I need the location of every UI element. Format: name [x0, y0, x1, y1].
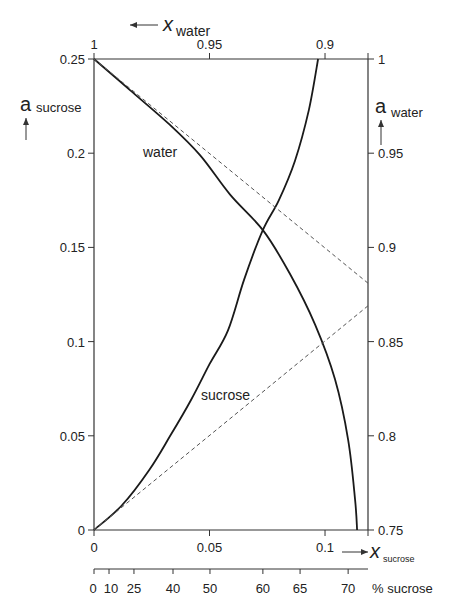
right-tick-label: 0.85	[378, 335, 403, 350]
x-sucrose-axis-title: x	[369, 540, 381, 562]
percent-tick-label: 0	[89, 581, 96, 596]
x-sucrose-axis-subscript: sucrose	[383, 554, 415, 564]
water-ideal-raoult-line	[94, 59, 368, 283]
percent-tick-label: 40	[166, 581, 180, 596]
right-tick-label: 0.75	[378, 523, 403, 538]
bottom-tick-label: 0.05	[197, 540, 222, 555]
sucrose-ideal-raoult-line	[94, 306, 368, 530]
percent-tick-label: 50	[203, 581, 217, 596]
a-water-axis-subscript: water	[390, 105, 423, 120]
percent-tick-label: 70	[341, 581, 355, 596]
sucrose-line	[94, 59, 318, 530]
percent-axis-title: % sucrose	[372, 581, 433, 596]
water-curve-label: water	[142, 144, 178, 160]
right-tick-label: 1	[378, 52, 385, 67]
percent-tick-label: 25	[127, 581, 141, 596]
left-tick-label: 0	[78, 523, 85, 538]
x-sucrose-arrow-icon-head	[361, 549, 368, 555]
plot-frame	[94, 59, 368, 569]
x-water-arrow-icon-head	[130, 22, 137, 28]
a-sucrose-arrow-icon-head	[23, 118, 29, 125]
percent-tick-label: 60	[256, 581, 270, 596]
a-water-axis-title: a	[375, 95, 387, 117]
right-tick-label: 0.9	[378, 240, 396, 255]
x-water-axis-subscript: water	[175, 23, 211, 39]
sucrose-curve-label: sucrose	[201, 387, 250, 403]
left-tick-label: 0.15	[60, 240, 85, 255]
water-line	[94, 59, 357, 530]
left-tick-label: 0.2	[67, 146, 85, 161]
left-tick-label: 0.05	[60, 429, 85, 444]
a-sucrose-axis-title: a	[20, 93, 32, 115]
percent-tick-label: 10	[104, 581, 118, 596]
left-tick-label: 0.1	[67, 335, 85, 350]
axis-labels: 00.050.10.150.20.250.750.80.850.90.95100…	[20, 13, 433, 596]
a-water-arrow-icon-head	[378, 120, 384, 127]
left-tick-label: 0.25	[60, 52, 85, 67]
percent-tick-label: 65	[293, 581, 307, 596]
top-tick-label: 0.95	[197, 37, 222, 52]
bottom-tick-label: 0.1	[316, 540, 334, 555]
x-water-axis-title: x	[162, 13, 174, 35]
right-tick-label: 0.95	[378, 146, 403, 161]
series-group	[94, 59, 368, 530]
top-tick-label: 0.9	[316, 37, 334, 52]
top-tick-label: 1	[90, 37, 97, 52]
bottom-tick-label: 0	[90, 540, 97, 555]
activity-chart: 00.050.10.150.20.250.750.80.850.90.95100…	[0, 0, 453, 611]
right-tick-label: 0.8	[378, 429, 396, 444]
a-sucrose-axis-subscript: sucrose	[36, 100, 82, 115]
